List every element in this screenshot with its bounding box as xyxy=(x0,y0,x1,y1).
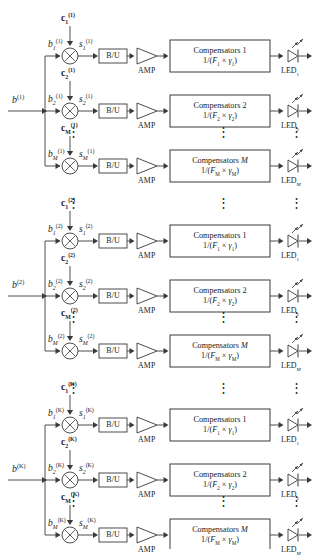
mixer-input-label: c2(1) xyxy=(61,69,75,79)
row-ellipsis-led: ⋮ xyxy=(290,496,303,506)
branch-signal-label: bM(2) xyxy=(48,335,65,345)
amplifier-label: AMP xyxy=(138,490,156,499)
row-ellipsis-led: ⋮ xyxy=(290,312,303,322)
compensator-title: Compensators M xyxy=(170,156,270,166)
block-ellipsis-compensator: ⋮ xyxy=(217,198,230,208)
branch-signal-label: b2(2) xyxy=(48,280,63,290)
compensator-expression: 1/(F1 × γ1) xyxy=(170,56,270,66)
mixer-input-label: c2(2) xyxy=(61,254,75,264)
compensator-title: Compensators 1 xyxy=(170,415,270,425)
branch-signal-label: b2(K) xyxy=(48,464,64,474)
block-ellipsis-led: ⋮ xyxy=(290,383,303,393)
row-ellipsis-mixer: ⋮ xyxy=(67,127,80,137)
compensator-title: Compensators 1 xyxy=(170,231,270,241)
bipolar-to-unipolar-box[interactable]: B/U xyxy=(99,161,127,170)
compensator-expression: 1/(F1 × γ1) xyxy=(170,425,270,435)
row-ellipsis-compensator: ⋮ xyxy=(217,127,230,137)
amplifier-label: AMP xyxy=(138,545,156,554)
branch-signal-label: b1(K) xyxy=(48,409,64,419)
compensator-box[interactable]: Compensators 11/(F1 × γ1) xyxy=(170,231,270,251)
mixer-output-label: s1(2) xyxy=(79,225,93,235)
row-ellipsis-led: ⋮ xyxy=(290,127,303,137)
mixer-output-label: s2(K) xyxy=(79,464,94,474)
amplifier-label: AMP xyxy=(138,66,156,75)
compensator-box[interactable]: Compensators M1/(FM × γM) xyxy=(170,525,270,545)
bipolar-to-unipolar-box[interactable]: B/U xyxy=(99,475,127,484)
compensator-title: Compensators 2 xyxy=(170,470,270,480)
bipolar-to-unipolar-box[interactable]: B/U xyxy=(99,51,127,60)
compensator-title: Compensators 2 xyxy=(170,101,270,111)
compensator-title: Compensators M xyxy=(170,525,270,535)
input-signal-label: b(2) xyxy=(12,280,24,290)
led-label: LEDM xyxy=(281,176,301,185)
compensator-expression: 1/(F1 × γ1) xyxy=(170,241,270,251)
mixer-output-label: s2(2) xyxy=(79,280,93,290)
mixer-output-label: sM(2) xyxy=(79,335,94,345)
compensator-box[interactable]: Compensators 21/(F2 × γ2) xyxy=(170,286,270,306)
branch-signal-label: b2(1) xyxy=(48,95,63,105)
mixer-output-label: sM(K) xyxy=(79,519,96,529)
compensator-expression: 1/(FM × γM) xyxy=(170,535,270,545)
compensator-expression: 1/(FM × γM) xyxy=(170,351,270,361)
branch-signal-label: bM(1) xyxy=(48,150,65,160)
block-ellipsis-compensator: ⋮ xyxy=(217,383,230,393)
mixer-output-label: sM(1) xyxy=(79,150,94,160)
compensator-box[interactable]: Compensators 21/(F2 × γ2) xyxy=(170,101,270,121)
row-ellipsis-compensator: ⋮ xyxy=(217,496,230,506)
led-label: LED1 xyxy=(281,435,299,444)
row-ellipsis-mixer: ⋮ xyxy=(67,312,80,322)
input-signal-label: b(1) xyxy=(12,95,24,105)
compensator-box[interactable]: Compensators M1/(FM × γM) xyxy=(170,156,270,176)
compensator-box[interactable]: Compensators 11/(F1 × γ1) xyxy=(170,415,270,435)
led-label: LED1 xyxy=(281,251,299,260)
compensator-expression: 1/(FM × γM) xyxy=(170,166,270,176)
compensator-box[interactable]: Compensators M1/(FM × γM) xyxy=(170,341,270,361)
mixer-input-label: c1(1) xyxy=(61,14,75,24)
mixer-output-label: s1(K) xyxy=(79,409,94,419)
compensator-title: Compensators 1 xyxy=(170,46,270,56)
bipolar-to-unipolar-box[interactable]: B/U xyxy=(99,291,127,300)
block-ellipsis-led: ⋮ xyxy=(290,198,303,208)
branch-signal-label: b1(1) xyxy=(48,40,63,50)
mixer-output-label: s1(1) xyxy=(79,40,93,50)
row-ellipsis-compensator: ⋮ xyxy=(217,312,230,322)
bipolar-to-unipolar-box[interactable]: B/U xyxy=(99,420,127,429)
compensator-expression: 1/(F2 × γ2) xyxy=(170,480,270,490)
amplifier-label: AMP xyxy=(138,121,156,130)
led-label: LEDM xyxy=(281,545,301,554)
amplifier-label: AMP xyxy=(138,251,156,260)
compensator-expression: 1/(F2 × γ2) xyxy=(170,296,270,306)
amplifier-label: AMP xyxy=(138,176,156,185)
branch-signal-label: bM(K) xyxy=(48,519,66,529)
bipolar-to-unipolar-box[interactable]: B/U xyxy=(99,106,127,115)
input-signal-label: b(K) xyxy=(12,464,26,474)
compensator-title: Compensators M xyxy=(170,341,270,351)
led-label: LED1 xyxy=(281,66,299,75)
branch-signal-label: b1(2) xyxy=(48,225,63,235)
amplifier-label: AMP xyxy=(138,306,156,315)
compensator-box[interactable]: Compensators 11/(F1 × γ1) xyxy=(170,46,270,66)
mixer-input-label: c1(K) xyxy=(61,383,77,393)
led-label: LEDM xyxy=(281,361,301,370)
compensator-title: Compensators 2 xyxy=(170,286,270,296)
bipolar-to-unipolar-box[interactable]: B/U xyxy=(99,236,127,245)
bipolar-to-unipolar-box[interactable]: B/U xyxy=(99,530,127,539)
compensator-box[interactable]: Compensators 21/(F2 × γ2) xyxy=(170,470,270,490)
compensator-expression: 1/(F2 × γ2) xyxy=(170,111,270,121)
amplifier-label: AMP xyxy=(138,361,156,370)
amplifier-label: AMP xyxy=(138,435,156,444)
bipolar-to-unipolar-box[interactable]: B/U xyxy=(99,346,127,355)
row-ellipsis-mixer: ⋮ xyxy=(67,496,80,506)
mixer-input-label: c2(K) xyxy=(61,438,77,448)
mixer-output-label: s2(1) xyxy=(79,95,93,105)
mixer-input-label: c1(2) xyxy=(61,199,75,209)
